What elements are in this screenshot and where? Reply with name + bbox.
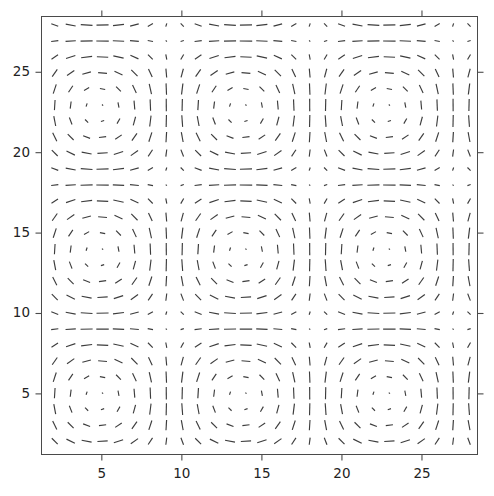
quiver-arrow [309, 40, 310, 41]
quiver-arrow [384, 441, 394, 442]
quiver-arrow [354, 70, 361, 75]
quiver-arrow [99, 425, 106, 426]
quiver-arrow [133, 261, 135, 270]
quiver-arrow [373, 247, 374, 250]
quiver-arrow [82, 440, 92, 442]
quiver-arrow [243, 89, 248, 90]
quiver-arrow [51, 312, 58, 315]
quiver-arrow [453, 420, 454, 430]
y-tick-label: 25 [13, 66, 30, 80]
quiver-arrow [309, 167, 310, 170]
quiver-arrow [181, 54, 184, 59]
quiver-arrow [54, 260, 56, 270]
y-tick-label: 15 [13, 226, 30, 240]
quiver-arrow [131, 151, 138, 156]
quiver-arrow [114, 215, 122, 219]
quiver-arrow [242, 361, 251, 362]
quiver-arrow [166, 312, 167, 315]
quiver-arrow [468, 343, 471, 348]
quiver-arrow [227, 280, 234, 283]
quiver-arrow [468, 420, 470, 430]
quiver-arrow [338, 343, 345, 347]
quiver-arrow [182, 259, 183, 271]
quiver-arrow [225, 344, 236, 345]
quiver-arrow [245, 249, 246, 250]
quiver-arrow [261, 102, 262, 107]
quiver-arrow [275, 358, 281, 364]
quiver-arrow [372, 408, 375, 411]
quiver-arrow [258, 215, 266, 219]
quiver-arrow [341, 388, 342, 398]
quiver-arrow [82, 72, 91, 74]
quiver-arrow [130, 343, 138, 347]
quiver-arrow [242, 281, 249, 282]
quiver-arrow [211, 134, 217, 140]
quiver-arrow [166, 343, 167, 348]
quiver-arrow [227, 232, 232, 235]
quiver-arrow [86, 392, 87, 395]
quiver-arrow [355, 86, 359, 93]
quiver-arrow [102, 104, 103, 105]
quiver-arrow [210, 151, 218, 155]
quiver-arrow [338, 24, 345, 27]
quiver-arrow [467, 329, 470, 330]
quiver-arrow [148, 343, 153, 348]
quiver-arrow [195, 343, 202, 347]
y-tick-label: 5 [21, 387, 30, 401]
quiver-arrow [309, 294, 310, 301]
quiver-arrow [368, 200, 379, 201]
quiver-arrow [241, 441, 251, 442]
quiver-arrow [436, 228, 438, 238]
quiver-arrow [228, 264, 231, 267]
quiver-arrow [277, 245, 278, 254]
quiver-arrow [418, 358, 424, 364]
quiver-arrow [324, 343, 327, 348]
quiver-arrow [212, 374, 216, 381]
quiver-arrow [389, 393, 390, 394]
quiver-arrow [195, 438, 201, 444]
quiver-arrow [196, 277, 200, 285]
quiver-arrow [100, 233, 105, 234]
quiver-arrow [277, 405, 279, 414]
quiver-arrow [453, 69, 454, 78]
quiver-arrow [417, 55, 425, 59]
quiver-arrow [273, 41, 282, 42]
quiver-arrow [113, 168, 124, 169]
quiver-arrow [226, 360, 235, 362]
quiver-arrow [453, 329, 454, 330]
quiver-arrow [403, 375, 408, 380]
quiver-arrow [244, 121, 247, 122]
quiver-arrow [148, 438, 152, 445]
quiver-arrow [355, 278, 361, 284]
quiver-arrow [325, 228, 326, 239]
y-tick-label: 20 [13, 146, 30, 160]
quiver-arrow [418, 439, 425, 444]
quiver-arrow [226, 216, 235, 218]
quiver-arrow [148, 357, 152, 365]
quiver-arrow [421, 245, 422, 254]
quiver-arrow [436, 276, 439, 285]
quiver-arrow [259, 423, 266, 427]
quiver-arrow [435, 150, 439, 157]
quiver-arrow [273, 185, 282, 186]
quiver-arrow [195, 55, 202, 59]
quiver-arrow [274, 312, 283, 314]
quiver-arrow [243, 377, 248, 378]
quiver-arrow [66, 41, 76, 42]
quiver-arrow [468, 276, 470, 286]
quiver-arrow [212, 86, 216, 93]
quiver-arrow [244, 409, 247, 410]
quiver-arrow [225, 200, 236, 201]
quiver-arrow [292, 276, 295, 285]
quiver-arrow [68, 278, 74, 284]
quiver-arrow [149, 372, 151, 382]
quiver-arrow [229, 392, 230, 395]
quiver-arrow [209, 41, 219, 42]
quiver-arrow [131, 295, 138, 300]
quiver-arrow [242, 217, 251, 218]
quiver-arrow [99, 137, 106, 138]
quiver-arrow [353, 151, 361, 155]
quiver-arrow [453, 357, 454, 366]
quiver-arrow [277, 261, 279, 270]
quiver-arrow [226, 72, 235, 74]
